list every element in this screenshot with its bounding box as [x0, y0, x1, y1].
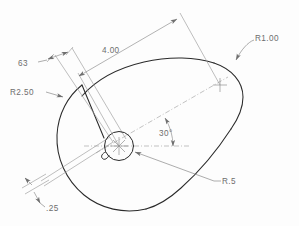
- leader-r250: [46, 92, 63, 97]
- dim-hole-radius: R.5: [135, 152, 236, 186]
- ext-line-right-center: [180, 13, 220, 85]
- dim-label-r100: R1.00: [255, 34, 279, 43]
- dim-label-63: 63: [18, 59, 28, 68]
- slot-wall-upper: [41, 137, 110, 181]
- dim-angle: 30°: [159, 118, 173, 146]
- lower-tangent-edge: [146, 129, 231, 209]
- dim-small-radius: R1.00: [236, 34, 279, 60]
- slot-group: [41, 48, 126, 186]
- dim-large-radius: R2.50: [10, 88, 63, 97]
- ext-line-25-outer: [22, 174, 46, 188]
- technical-drawing: 4.00 63 .25 30°: [0, 0, 299, 226]
- ext-line-left-center: [78, 73, 119, 146]
- drawing-canvas: 4.00 63 .25 30°: [0, 0, 299, 226]
- part-outline-invisible: [62, 69, 245, 207]
- leader-63: [38, 60, 47, 62]
- dim-label-r250: R2.50: [10, 88, 34, 97]
- leader-25: [40, 203, 45, 207]
- dim-label-30: 30°: [159, 129, 173, 138]
- nose-arc-r1: [214, 63, 243, 129]
- dim-label-4-00: 4.00: [102, 46, 120, 55]
- dim-label-r5: R.5: [222, 177, 236, 186]
- ext-line-63-right: [66, 47, 73, 55]
- large-arc-r250: [57, 85, 146, 211]
- upper-tangent-edge: [82, 58, 214, 96]
- dim-slot-length: 63: [18, 47, 73, 68]
- slot-wall-lower: [44, 142, 113, 186]
- leader-r100: [236, 40, 254, 60]
- slot-edge-lower: [82, 96, 105, 145]
- dim-label-25: .25: [46, 204, 59, 213]
- dim-line-4-00: [79, 19, 177, 76]
- centerlines-group: [84, 77, 228, 155]
- inclined-axis-centerline: [96, 77, 228, 153]
- ext-line-25-inner: [25, 180, 49, 194]
- dim-arrow-25-lower: [34, 192, 40, 203]
- dim-line-63: [48, 52, 68, 59]
